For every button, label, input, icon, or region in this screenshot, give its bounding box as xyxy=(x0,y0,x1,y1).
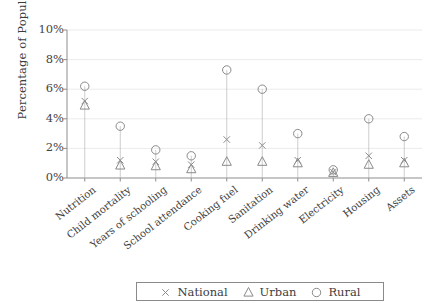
legend-x-icon-shape xyxy=(163,289,169,295)
series-urban xyxy=(80,100,409,176)
legend-x-icon xyxy=(159,286,171,298)
legend-entry-urban[interactable]: Urban xyxy=(242,285,297,299)
legend-circle-icon-shape xyxy=(313,288,321,296)
legend-triangle-icon xyxy=(242,286,254,298)
chart-legend: NationalUrbanRural xyxy=(136,282,384,301)
series-national xyxy=(82,98,408,175)
legend-label: National xyxy=(177,285,227,299)
y-tick-label: 4% xyxy=(46,113,64,125)
series-rural xyxy=(81,66,409,174)
chart-figure: Percentage of Population 0%2%4%6%8%10% N… xyxy=(0,0,428,303)
legend-entry-rural[interactable]: Rural xyxy=(310,285,360,299)
legend-entry-national[interactable]: National xyxy=(159,285,227,299)
plot-area xyxy=(0,0,428,303)
y-tick-label: 6% xyxy=(46,83,64,95)
legend-triangle-icon-shape xyxy=(243,287,252,296)
y-axis-title: Percentage of Population xyxy=(15,0,29,125)
y-tick-label: 0% xyxy=(46,172,64,184)
legend-circle-icon xyxy=(310,286,322,298)
y-tick-label: 8% xyxy=(46,54,64,66)
y-tick-label: 2% xyxy=(46,142,64,154)
y-tick-label: 10% xyxy=(38,24,64,36)
legend-label: Urban xyxy=(260,285,297,299)
legend-label: Rural xyxy=(328,285,360,299)
